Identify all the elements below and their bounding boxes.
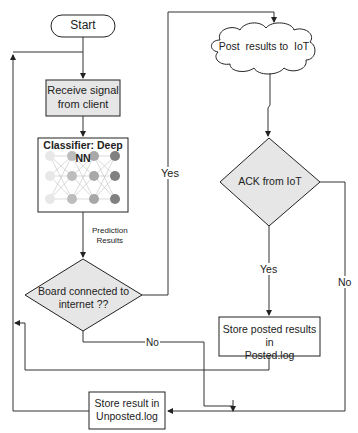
board-yes-label: Yes [160,167,180,179]
arrow-post-ack [268,73,270,136]
board-line-1: Board connected to [25,285,142,298]
ack-label: ACK from IoT [220,175,320,188]
prediction-line-2: Results [92,236,128,246]
flowchart-canvas [0,0,358,433]
start-label: Start [51,18,115,33]
receive-line-2: from client [46,98,120,112]
board-no-label: No [145,337,160,348]
prediction-results-label: Prediction Results [91,226,129,247]
receive-line-1: Receive signal [46,84,120,98]
ack-yes-label: Yes [259,263,278,275]
receive-signal-label: Receive signal from client [46,84,120,112]
posted-log-label: Store posted results in Posted.log [219,323,320,362]
unposted-line-1: Store result in [89,397,165,410]
board-connected-label: Board connected to internet ?? [25,285,142,311]
posted-line-2: Posted.log [219,349,320,362]
arrow-ack-no-unposted [168,182,345,411]
post-results-label: Post results to IoT [212,40,316,53]
board-line-2: internet ?? [25,298,142,311]
unposted-log-label: Store result in Unposted.log [89,397,165,423]
unposted-line-2: Unposted.log [89,410,165,423]
prediction-line-1: Prediction [92,226,128,236]
classifier-title: Classifier: Deep NN [38,139,128,165]
ack-no-label: No [337,276,352,288]
posted-line-1: Store posted results in [219,323,320,349]
